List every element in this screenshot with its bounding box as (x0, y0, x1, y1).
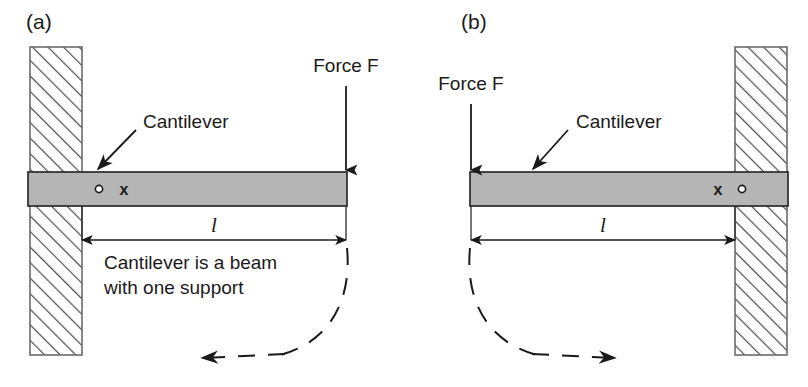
beam-marker-cross-label: x (714, 181, 723, 198)
panel-a-cantilever-annotation: Cantilever (98, 111, 229, 169)
panel-b-cantilever-annotation: Cantilever (533, 111, 662, 169)
force-label: Force F (313, 55, 378, 76)
deflection-arc (280, 248, 348, 355)
cantilever-label: Cantilever (143, 111, 229, 132)
panel-a-dimension: l (82, 206, 346, 240)
force-label: Force F (438, 73, 503, 94)
cantilever-pointer-arrow (98, 130, 136, 169)
cantilever-pointer-arrow (533, 130, 568, 169)
cantilever-figure: x Force F Cantilever l Cantilever i (0, 0, 808, 387)
panel-label-a: (a) (26, 10, 52, 33)
panel-b-dimension: l (471, 206, 735, 240)
caption-line-2: with one support (103, 277, 244, 298)
panel-a-force: Force F (313, 55, 378, 170)
length-dimension-label: l (211, 213, 217, 237)
panel-b: x Force F Cantilever l (438, 10, 788, 358)
panel-label-b: (b) (461, 10, 487, 33)
beam-marker-circle-icon (738, 185, 745, 192)
panel-a-caption: Cantilever is a beam with one support (103, 252, 277, 298)
panel-a: x Force F Cantilever l Cantilever i (26, 10, 379, 358)
deflection-arc (469, 248, 537, 355)
panel-a-beam: x (28, 172, 347, 206)
panel-b-force: Force F (438, 73, 503, 170)
beam-marker-cross-label: x (120, 181, 129, 198)
caption-line-1: Cantilever is a beam (104, 252, 277, 273)
beam-marker-circle-icon (95, 185, 102, 192)
panel-b-beam: x (470, 172, 788, 206)
panel-b-rotation-arc (469, 248, 615, 358)
cantilever-label: Cantilever (576, 111, 662, 132)
figure-canvas: x Force F Cantilever l Cantilever i (0, 0, 808, 387)
length-dimension-label: l (600, 213, 606, 237)
deflection-arc-arrow (532, 354, 615, 358)
cantilever-beam (28, 172, 347, 206)
deflection-arc-arrow (202, 354, 285, 358)
